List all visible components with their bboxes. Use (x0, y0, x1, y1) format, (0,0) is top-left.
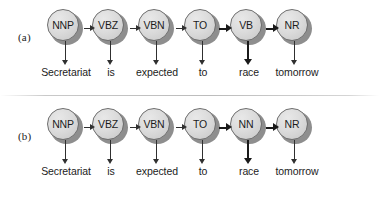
arrow-shaft (110, 140, 111, 160)
node-tag-label: VBN (138, 108, 170, 140)
node-nr-b[interactable]: NR (276, 108, 312, 144)
word-connector-vb-a (243, 41, 253, 66)
arrow-shaft (202, 140, 203, 160)
arrow-head-icon (107, 60, 113, 65)
panel-label-b: (b) (18, 130, 31, 142)
word-label: expected (136, 66, 178, 78)
node-tag-label: NR (276, 108, 308, 140)
arrow-head-icon (136, 124, 141, 130)
arrow-shaft (156, 140, 157, 160)
arrow-head-icon (153, 60, 159, 65)
node-tag-label: NNP (47, 9, 79, 41)
arrow-head-icon (199, 159, 205, 164)
word-label: tomorrow (276, 165, 319, 177)
pos-tagging-figure: (a) NNP VBZ VBN TO VB (0, 0, 379, 197)
node-tag-label: VBZ (92, 9, 124, 41)
node-tag-label: TO (184, 108, 216, 140)
arrow-head-icon (90, 25, 95, 31)
arrow-head-icon (90, 124, 95, 130)
arrow-head-icon (199, 60, 205, 65)
word-connector-nn-b (243, 140, 253, 165)
node-vb-a[interactable]: VB (230, 9, 266, 45)
connector-vb-nr-a (266, 24, 280, 34)
word-label: to (199, 66, 208, 78)
word-connector-nr-b (289, 140, 299, 165)
connector-nnp-vbz-b (84, 123, 95, 133)
arrow-head-icon (62, 159, 68, 164)
node-nr-a[interactable]: NR (276, 9, 312, 45)
arrow-shaft (294, 140, 295, 160)
node-tag-label: VBZ (92, 108, 124, 140)
connector-vbz-vbn-b (130, 123, 141, 133)
arrow-head-icon (273, 123, 279, 131)
connector-nn-nr-b (266, 123, 280, 133)
node-nnp-a[interactable]: NNP (47, 9, 83, 45)
node-tag-label: VBN (138, 9, 170, 41)
node-vbz-b[interactable]: VBZ (92, 108, 128, 144)
arrow-head-icon (273, 24, 279, 32)
arrow-head-icon (244, 59, 252, 65)
word-connector-to-a (197, 41, 207, 66)
node-to-a[interactable]: TO (184, 9, 220, 45)
arrow-shaft (65, 140, 66, 160)
connector-vbn-to-a (176, 24, 187, 34)
node-tag-label: NN (230, 108, 262, 140)
arrow-shaft (247, 140, 249, 159)
node-tag-label: NNP (47, 108, 79, 140)
word-connector-to-b (197, 140, 207, 165)
word-label: Secretariat (41, 66, 91, 78)
panel-label-a: (a) (18, 31, 31, 43)
arrow-head-icon (107, 159, 113, 164)
arrow-shaft (202, 41, 203, 61)
node-tag-label: VB (230, 9, 262, 41)
connector-to-vb-a (219, 24, 233, 34)
word-label: race (239, 66, 259, 78)
word-connector-nnp-a (60, 41, 70, 66)
word-label: is (107, 165, 114, 177)
word-label: expected (136, 165, 178, 177)
node-tag-label: TO (184, 9, 216, 41)
arrow-shaft (294, 41, 295, 61)
word-connector-nr-a (289, 41, 299, 66)
arrow-shaft (247, 41, 249, 60)
word-connector-vbz-b (105, 140, 115, 165)
node-tag-label: NR (276, 9, 308, 41)
word-connector-vbz-a (105, 41, 115, 66)
arrow-head-icon (182, 124, 187, 130)
panel-b: (b) NNP VBZ VBN TO NN (0, 99, 379, 195)
word-connector-vbn-a (151, 41, 161, 66)
node-to-b[interactable]: TO (184, 108, 220, 144)
connector-vbn-to-b (176, 123, 187, 133)
word-connector-nnp-b (60, 140, 70, 165)
arrow-shaft (110, 41, 111, 61)
panel-divider (0, 95, 379, 96)
word-label: is (107, 66, 114, 78)
word-label: Secretariat (41, 165, 91, 177)
node-nn-b[interactable]: NN (230, 108, 266, 144)
word-label: tomorrow (276, 66, 319, 78)
panel-a: (a) NNP VBZ VBN TO VB (0, 0, 379, 96)
arrow-head-icon (136, 25, 141, 31)
arrow-shaft (156, 41, 157, 61)
node-vbn-a[interactable]: VBN (138, 9, 174, 45)
connector-nnp-vbz-a (84, 24, 95, 34)
connector-vbz-vbn-a (130, 24, 141, 34)
arrow-shaft (65, 41, 66, 61)
node-nnp-b[interactable]: NNP (47, 108, 83, 144)
arrow-head-icon (226, 123, 232, 131)
node-vbn-b[interactable]: VBN (138, 108, 174, 144)
word-label: to (199, 165, 208, 177)
arrow-head-icon (153, 159, 159, 164)
arrow-head-icon (62, 60, 68, 65)
connector-to-nn-b (219, 123, 233, 133)
word-connector-vbn-b (151, 140, 161, 165)
word-label: race (239, 165, 259, 177)
arrow-head-icon (244, 158, 252, 164)
arrow-head-icon (182, 25, 187, 31)
node-vbz-a[interactable]: VBZ (92, 9, 128, 45)
arrow-head-icon (291, 159, 297, 164)
arrow-head-icon (226, 24, 232, 32)
arrow-head-icon (291, 60, 297, 65)
